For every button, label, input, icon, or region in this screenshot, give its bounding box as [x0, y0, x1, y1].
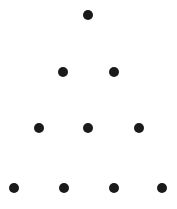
dot-r1-c1 — [83, 10, 93, 20]
dot-r2-c2 — [109, 67, 119, 77]
dot-diagram-canvas — [0, 0, 177, 209]
dot-r3-c3 — [134, 123, 144, 133]
dot-r2-c1 — [58, 67, 68, 77]
dot-r4-c2 — [59, 183, 69, 193]
dot-r3-c1 — [34, 123, 44, 133]
dot-row-3 — [0, 0, 177, 209]
dot-row-4 — [0, 0, 177, 209]
dot-r4-c3 — [109, 183, 119, 193]
dot-row-2 — [0, 0, 177, 209]
dot-r4-c4 — [157, 183, 167, 193]
dot-r4-c1 — [9, 183, 19, 193]
dot-row-1 — [0, 0, 177, 209]
dot-r3-c2 — [83, 123, 93, 133]
